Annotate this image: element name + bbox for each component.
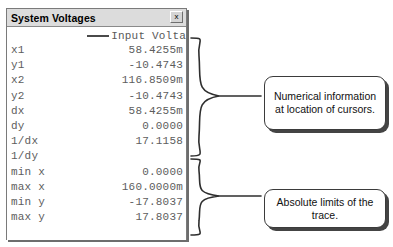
callout-limits: Absolute limits of the trace. — [264, 189, 386, 228]
measurement-row: 1/dy — [7, 150, 186, 165]
measurement-row: x2116.8509m — [7, 74, 186, 89]
measurement-value: 58.4255m — [25, 44, 183, 56]
measurement-row: dx58.4255m — [7, 105, 186, 120]
callout-cursors: Numerical information at location of cur… — [264, 76, 386, 130]
measurement-label: 1/dy — [11, 150, 38, 162]
measurement-label: x1 — [11, 44, 25, 56]
measurement-value: 58.4255m — [25, 105, 183, 117]
measurement-label: max x — [11, 181, 45, 193]
measurement-row: y1-10.4743 — [7, 59, 186, 74]
close-icon[interactable]: x — [170, 11, 183, 23]
measurement-value: 0.0000 — [25, 120, 183, 132]
measurement-label: dy — [11, 120, 25, 132]
brace-cursors — [189, 36, 265, 158]
measurement-label: dx — [11, 105, 25, 117]
measurement-row: dy0.0000 — [7, 120, 186, 135]
measurement-label: 1/dx — [11, 135, 38, 147]
measurement-value: 0.0000 — [45, 166, 183, 178]
measurement-value: -10.4743 — [25, 90, 183, 102]
measurement-row: y2-10.4743 — [7, 90, 186, 105]
panel-body: Input Volta x158.4255my1-10.4743x2116.85… — [7, 27, 186, 240]
measurement-row: 1/dx17.1158 — [7, 135, 186, 150]
legend-line-swatch — [87, 35, 109, 37]
callout-limits-text: Absolute limits of the trace. — [272, 196, 378, 222]
measurement-value: 17.8037 — [45, 211, 183, 223]
measurement-label: min y — [11, 196, 45, 208]
measurement-label: y1 — [11, 59, 25, 71]
measurement-row: x158.4255m — [7, 44, 186, 59]
measurement-value: -17.8037 — [45, 196, 183, 208]
measurement-value: 160.0000m — [45, 181, 183, 193]
measurement-list: x158.4255my1-10.4743x2116.8509my2-10.474… — [7, 44, 186, 226]
measurement-value: -10.4743 — [25, 59, 183, 71]
measurement-label: max y — [11, 211, 45, 223]
measurement-label: min x — [11, 166, 45, 178]
measurement-value: 116.8509m — [25, 74, 183, 86]
measurement-row: min y-17.8037 — [7, 196, 186, 211]
legend-label: Input Volta — [111, 30, 186, 42]
measurement-label: y2 — [11, 90, 25, 102]
measurement-row: min x0.0000 — [7, 166, 186, 181]
measurement-label: x2 — [11, 74, 25, 86]
measurement-row: max y17.8037 — [7, 211, 186, 226]
system-voltages-panel: System Voltages x Input Volta x158.4255m… — [6, 8, 187, 240]
panel-titlebar: System Voltages x — [7, 9, 186, 27]
measurement-value: 17.1158 — [38, 135, 183, 147]
measurement-row: max x160.0000m — [7, 181, 186, 196]
brace-limits — [189, 157, 265, 237]
panel-title: System Voltages — [7, 12, 96, 24]
callout-cursors-text: Numerical information at location of cur… — [272, 90, 378, 116]
legend: Input Volta — [7, 28, 186, 44]
